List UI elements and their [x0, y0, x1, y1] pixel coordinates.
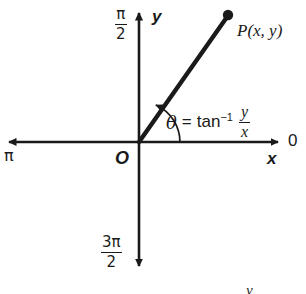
angle-label-zero: 0 — [288, 132, 297, 149]
equals-sign: = — [182, 112, 192, 132]
angle-label-pi: π — [4, 148, 14, 164]
x-axis-label: x — [267, 150, 276, 167]
point-p-marker — [223, 10, 233, 20]
y-over-x-fraction: y x — [239, 104, 250, 141]
polar-angle-diagram: π 2 3π 2 π 0 y x O P(x, y) θ = tan −1 y … — [0, 0, 306, 294]
angle-label-3pi-over-2-numerator: 3π — [101, 234, 122, 253]
angle-label-pi-over-2-numerator: π — [115, 6, 127, 25]
diagram-canvas — [0, 0, 306, 294]
point-p-label: P(x, y) — [237, 22, 282, 39]
fraction-numerator-y: y — [239, 104, 250, 123]
inverse-exponent: −1 — [220, 111, 233, 123]
angle-label-3pi-over-2-denominator: 2 — [101, 253, 122, 271]
bottom-edge-artifact: y — [246, 283, 253, 294]
tangent-function: tan — [197, 112, 221, 132]
angle-equation: θ = tan −1 y x — [166, 104, 250, 141]
fraction-denominator-x: x — [239, 123, 250, 141]
angle-label-pi-over-2-denominator: 2 — [115, 25, 127, 43]
angle-label-3pi-over-2: 3π 2 — [101, 234, 122, 271]
angle-label-pi-over-2: π 2 — [115, 6, 127, 43]
theta-symbol: θ — [166, 112, 177, 133]
y-axis-label: y — [152, 8, 161, 25]
origin-label: O — [115, 149, 129, 167]
